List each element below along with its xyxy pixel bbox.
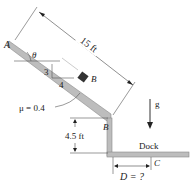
dock-label: Dock (139, 141, 159, 151)
arrowhead-right-icon (146, 164, 150, 168)
gravity-label: g (155, 99, 160, 109)
dock-surface (107, 152, 189, 157)
point-c-label: C (154, 158, 161, 168)
ramp-diagram: 15 ft θ 3 4 B A μ = 0.4 B 4.5 ft g Dock … (0, 0, 191, 184)
arrowhead-down-icon (73, 148, 77, 152)
length-extension-a (15, 7, 37, 40)
block (77, 71, 88, 82)
slope-run-label: 4 (59, 80, 64, 90)
gravity-arrow-icon (147, 122, 153, 129)
motion-streak (62, 58, 78, 70)
height-label: 4.5 ft (65, 131, 84, 141)
length-extension-b (113, 82, 135, 115)
point-a-label: A (3, 39, 11, 50)
point-b-label: B (103, 122, 109, 132)
block-label: B (91, 74, 97, 84)
friction-label: μ = 0.4 (19, 103, 45, 113)
arrowhead-up-icon (73, 119, 77, 123)
distance-label: D = ? (119, 171, 144, 182)
arrowhead-left-icon (114, 164, 118, 168)
slope-rise-label: 3 (44, 67, 49, 77)
angle-label: θ (32, 50, 37, 60)
